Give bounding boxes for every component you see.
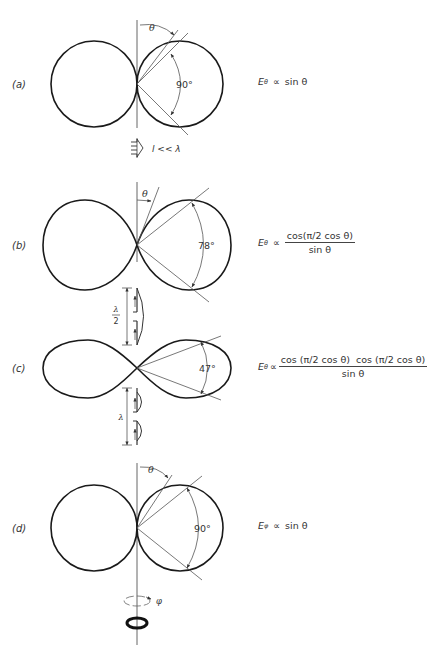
formula-c: Eθ ∝ cos (π/2 cos θ) cos (π/2 cos θ) sin… [258, 354, 427, 379]
formula-c-proportional: ∝ [270, 361, 277, 372]
half-wave-dipole-icon [122, 288, 144, 345]
left-lobe-d [51, 485, 137, 571]
formula-a-subscript: θ [264, 78, 268, 86]
source-caption-b-num: λ [112, 305, 118, 314]
formula-d-expression: sin θ [285, 520, 307, 531]
panel-label-a: (a) [12, 79, 26, 90]
theta-label-b: θ [142, 188, 148, 199]
theta-line-a [137, 30, 178, 84]
formula-b-fraction: cos(π/2 cos θ) sin θ [285, 230, 355, 255]
formula-a-expression: sin θ [285, 76, 307, 87]
theta-arrow-b [137, 200, 151, 201]
formula-b: Eθ ∝ cos(π/2 cos θ) sin θ [258, 230, 355, 255]
theta-label-a: θ [149, 22, 155, 33]
panel-a: (a) θ 90° l << λ [12, 20, 223, 158]
formula-a: Eθ ∝ sin θ [258, 76, 307, 87]
panel-b: (b) θ 78° λ 2 [12, 182, 231, 345]
left-lobe-a [51, 41, 137, 127]
beamwidth-label-b: 78° [198, 240, 215, 251]
formula-b-subscript: θ [264, 239, 268, 247]
source-caption-a: l << λ [152, 144, 181, 154]
formula-c-denominator: sin θ [342, 367, 364, 379]
formula-c-numerator: cos (π/2 cos θ) cos (π/2 cos θ) [279, 354, 427, 367]
formula-c-fraction: cos (π/2 cos θ) cos (π/2 cos θ) sin θ [279, 354, 427, 379]
beamwidth-label-c: 47° [199, 363, 216, 374]
panel-label-c: (c) [12, 363, 25, 374]
short-dipole-icon [131, 138, 143, 158]
formula-b-denominator: sin θ [309, 243, 331, 255]
theta-arrow-d [140, 467, 168, 478]
theta-line-d [137, 475, 172, 528]
formula-d: Eφ ∝ sin θ [258, 520, 308, 531]
beamwidth-label-a: 90° [176, 79, 193, 90]
panel-label-d: (d) [12, 523, 26, 534]
theta-label-d: θ [148, 464, 154, 475]
formula-d-subscript: φ [264, 522, 268, 530]
formula-a-proportional: ∝ [273, 76, 280, 87]
source-caption-d: φ [156, 596, 162, 606]
panel-c: (c) 47° λ [12, 336, 231, 445]
beamwidth-label-d: 90° [194, 523, 211, 534]
formula-c-subscript: θ [264, 363, 268, 371]
source-caption-c: λ [117, 413, 123, 422]
theta-arrow-a [140, 24, 174, 35]
left-lobe-c [43, 340, 137, 398]
panel-label-b: (b) [12, 240, 26, 251]
full-wave-dipole-icon [122, 388, 142, 445]
right-lobe-c [137, 340, 231, 398]
formula-d-proportional: ∝ [273, 520, 280, 531]
right-lobe-b [137, 200, 231, 290]
panel-d: (d) θ 90° φ [12, 463, 223, 645]
formula-b-proportional: ∝ [273, 237, 280, 248]
left-lobe-b [43, 200, 137, 290]
formula-b-numerator: cos(π/2 cos θ) [285, 230, 355, 243]
source-caption-b-den: 2 [113, 317, 118, 326]
